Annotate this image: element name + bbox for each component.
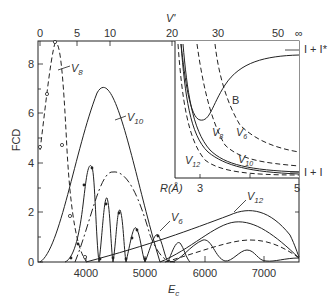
top-tick-30: 30 <box>212 27 224 39</box>
fcd-chart: 0 2 4 6 8 FCD 4000 5000 6000 7000 Ec 0 5… <box>0 0 336 306</box>
v10-label: V10 <box>127 111 144 126</box>
v12-label: V12 <box>247 190 264 205</box>
y-tick-8: 8 <box>28 58 34 70</box>
top-tick-5: 5 <box>74 27 80 39</box>
x-tick-4000: 4000 <box>74 267 98 279</box>
v6-label: V6 <box>171 211 183 226</box>
v10-curve <box>40 87 160 262</box>
lower-asymptote-label: I + I <box>304 166 323 178</box>
inset-tick-5: 5 <box>294 182 300 194</box>
y-tick-0: 0 <box>28 256 34 268</box>
v6-label-group: V6 <box>160 211 183 231</box>
inset-potential-plot: R(Å) 3 5 I + I* I + I B V8 V6 V12 V10 <box>160 41 328 194</box>
top-tick-10: 10 <box>104 27 116 39</box>
y-axis-label: FCD <box>10 129 22 152</box>
x-tick-6000: 6000 <box>193 267 217 279</box>
x-axis-label: Ec <box>168 283 179 298</box>
bottom-oscillating-curve <box>170 240 299 262</box>
y-tick-4: 4 <box>28 157 34 169</box>
upper-asymptote-label: I + I* <box>304 43 328 55</box>
top-tick-50: 50 <box>272 27 284 39</box>
inset-tick-3: 3 <box>197 182 203 194</box>
v8-label: V8 <box>71 62 83 77</box>
y-tick-2: 2 <box>28 206 34 218</box>
top-tick-20: 20 <box>166 27 178 39</box>
inset-b-label: B <box>232 94 239 106</box>
top-axis-label: V' <box>166 12 176 24</box>
y-tick-6: 6 <box>28 107 34 119</box>
x-tick-7000: 7000 <box>252 267 276 279</box>
middle-solid-curve <box>160 222 299 262</box>
inset-x-label: R(Å) <box>160 182 183 194</box>
top-tick-infinity: ∞ <box>295 27 303 39</box>
top-tick-0: 0 <box>37 27 43 39</box>
x-tick-5000: 5000 <box>133 267 157 279</box>
v12-label-group: V12 <box>234 190 264 212</box>
